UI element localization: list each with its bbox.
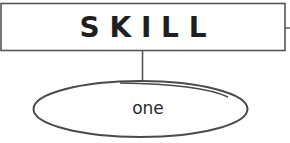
title-box-label: S K I L L: [80, 11, 207, 44]
diagram-canvas: S K I L L one: [0, 0, 290, 143]
child-node-label: one: [132, 98, 164, 118]
